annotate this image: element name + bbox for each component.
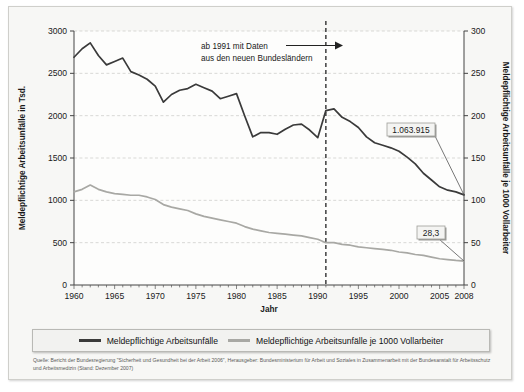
y-tick-label-right: 300	[471, 26, 486, 36]
y-tick-label-left: 3000	[48, 26, 67, 36]
y-tick-label-left: 2000	[48, 111, 67, 121]
x-tick-label: 1985	[268, 291, 287, 301]
x-tick-label: 2005	[430, 291, 449, 301]
y-tick-label-left: 0	[62, 280, 67, 290]
y-tick-label-left: 500	[53, 238, 68, 248]
annotation-line-1: ab 1991 mit Daten	[201, 42, 268, 51]
y-tick-label-left: 1000	[48, 195, 67, 205]
legend-item-rate[interactable]: Meldepflichtige Arbeitsunfälle je 1000 V…	[228, 336, 443, 346]
y-tick-label-right: 0	[471, 280, 476, 290]
legend-item-accidents[interactable]: Meldepflichtige Arbeitsunfälle	[79, 336, 218, 346]
x-tick-label: 1980	[227, 291, 246, 301]
y-tick-label-right: 150	[471, 153, 486, 163]
chart-legend: Meldepflichtige Arbeitsunfälle Meldepfli…	[32, 329, 490, 352]
value-label-rate-text: 28,3	[423, 228, 440, 238]
chart-canvas: 0500100015002000250030000501001502002503…	[9, 7, 513, 325]
y-tick-label-left: 2500	[48, 68, 67, 78]
legend-swatch-rate	[228, 339, 250, 341]
chart-panel: 0500100015002000250030000501001502002503…	[8, 6, 512, 380]
legend-swatch-accidents	[79, 339, 101, 341]
x-tick-label: 1965	[105, 291, 124, 301]
line-chart: 0500100015002000250030000501001502002503…	[9, 7, 513, 325]
y-tick-label-right: 100	[471, 195, 486, 205]
legend-label-accidents: Meldepflichtige Arbeitsunfälle	[107, 336, 218, 346]
y-tick-label-right: 200	[471, 111, 486, 121]
x-tick-label: 1990	[308, 291, 327, 301]
legend-label-rate: Meldepflichtige Arbeitsunfälle je 1000 V…	[256, 336, 443, 346]
y-tick-label-left: 1500	[48, 153, 67, 163]
x-tick-label: 2008	[454, 291, 473, 301]
x-tick-label: 2000	[389, 291, 408, 301]
y-tick-label-right: 50	[471, 238, 481, 248]
y-axis-title-right: Meldepflichtige Arbeitsunfälle je 1000 V…	[501, 62, 510, 255]
source-note: Quelle: Bericht der Bundesregierung "Sic…	[33, 357, 493, 373]
annotation-line-2: aus den neuen Bundesländern	[201, 54, 313, 63]
x-tick-label: 1995	[349, 291, 368, 301]
x-axis-title: Jahr	[260, 305, 278, 314]
value-label-accidents-text: 1.063.915	[392, 125, 430, 135]
y-tick-label-right: 250	[471, 68, 486, 78]
x-tick-label: 1975	[186, 291, 205, 301]
y-axis-title-left: Meldepflichtige Arbeitsunfälle in Tsd.	[18, 86, 27, 230]
x-tick-label: 1960	[64, 291, 83, 301]
x-tick-label: 1970	[146, 291, 165, 301]
